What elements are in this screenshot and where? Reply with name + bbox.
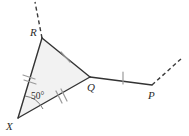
dashed-ray-beyond-p (152, 58, 182, 85)
segment-qp (90, 77, 152, 85)
geometry-figure: X R Q P 50° (0, 0, 189, 136)
angle-label-50: 50° (31, 91, 45, 101)
vertex-label-q: Q (87, 81, 95, 93)
vertex-label-r: R (29, 26, 37, 38)
vertex-label-p: P (147, 89, 155, 101)
triangle-fill-xrq (18, 38, 90, 118)
vertex-label-x: X (5, 120, 14, 132)
